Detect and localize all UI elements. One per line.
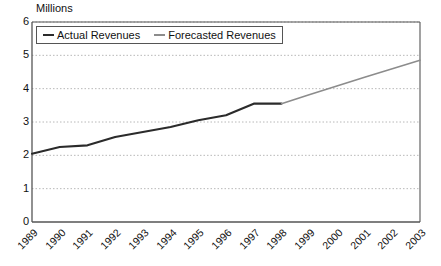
- x-axis-tick-2001: 2001: [341, 227, 373, 259]
- legend-line-icon: [154, 34, 165, 36]
- revenue-line-chart: Millions 6543210 19891990199119921993199…: [0, 0, 441, 266]
- x-axis-tick-2002: 2002: [368, 227, 400, 259]
- x-axis-tick-1993: 1993: [119, 227, 151, 259]
- x-axis-tick-1989: 1989: [8, 227, 40, 259]
- x-axis-tick-1997: 1997: [230, 227, 262, 259]
- chart-legend: Actual RevenuesForecasted Revenues: [36, 26, 283, 44]
- x-axis-tick-2003: 2003: [396, 227, 428, 259]
- x-axis-tick-1994: 1994: [147, 227, 179, 259]
- x-axis-tick-1999: 1999: [285, 227, 317, 259]
- x-axis-tick-1996: 1996: [202, 227, 234, 259]
- legend-item-forecast[interactable]: Forecasted Revenues: [154, 29, 276, 41]
- x-axis-tick-1991: 1991: [63, 227, 95, 259]
- legend-line-icon: [43, 34, 54, 36]
- legend-item-label: Forecasted Revenues: [168, 29, 276, 41]
- x-axis-tick-1995: 1995: [174, 227, 206, 259]
- x-axis-tick-1990: 1990: [36, 227, 68, 259]
- x-axis-tick-1992: 1992: [91, 227, 123, 259]
- x-axis-tick-2000: 2000: [313, 227, 345, 259]
- x-axis-tick-1998: 1998: [257, 227, 289, 259]
- legend-item-actual[interactable]: Actual Revenues: [43, 29, 140, 41]
- legend-item-label: Actual Revenues: [57, 29, 140, 41]
